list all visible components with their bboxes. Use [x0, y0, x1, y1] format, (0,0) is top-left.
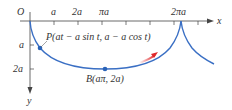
motion-arrow	[139, 55, 155, 63]
y-axis-label: y	[27, 96, 31, 106]
x-tick-label-a: a	[51, 7, 56, 17]
x-axis	[20, 19, 214, 26]
x-axis-arrow-icon	[207, 19, 214, 24]
point-b	[103, 67, 108, 72]
x-axis-ticks	[54, 21, 198, 25]
x-tick-label-pi-a: πa	[99, 7, 109, 17]
x-axis-label: x	[217, 16, 221, 26]
cycloid-curve-next-arch	[181, 21, 214, 64]
y-tick-label-a: a	[19, 40, 24, 50]
point-p-label: P(at − a sin t, a − a cos t)	[46, 32, 151, 42]
x-tick-label-2a: 2a	[72, 7, 82, 17]
cycloid-curve	[30, 21, 181, 69]
y-axis-ticks	[30, 45, 34, 69]
x-tick-label-2pi-a: 2πa	[171, 7, 186, 17]
cycloid-plot	[0, 0, 232, 110]
cycloid-figure: O a 2a πa 2πa x a 2a y P(at − a sin t, a…	[0, 0, 232, 110]
y-axis-arrow-icon	[28, 87, 33, 94]
point-b-label: B(aπ, 2a)	[86, 74, 124, 84]
y-tick-label-2a: 2a	[13, 64, 23, 74]
origin-label: O	[17, 7, 24, 17]
